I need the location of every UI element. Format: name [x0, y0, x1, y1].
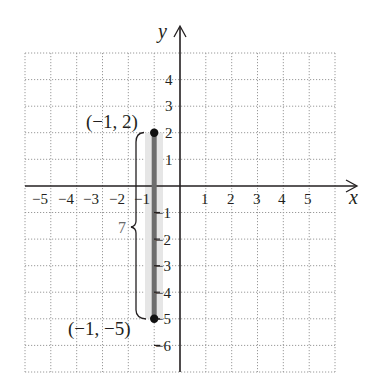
svg-text:−6: −6: [155, 338, 171, 354]
svg-text:−1: −1: [155, 205, 171, 221]
point-top-marker: [150, 129, 158, 137]
svg-text:−4: −4: [155, 285, 171, 301]
svg-text:2: 2: [227, 191, 235, 207]
svg-text:−3: −3: [83, 191, 99, 207]
y-tick-labels: 4 3 2 1 −1 −2 −3 −4 −5 −6: [155, 72, 173, 354]
svg-text:4: 4: [278, 191, 286, 207]
svg-text:−2: −2: [155, 232, 171, 248]
svg-text:−3: −3: [155, 258, 171, 274]
y-axis-label: y: [156, 20, 167, 43]
svg-text:2: 2: [165, 125, 173, 141]
svg-text:3: 3: [165, 98, 173, 114]
svg-text:−2: −2: [109, 191, 125, 207]
svg-text:1: 1: [201, 191, 209, 207]
coordinate-graph: 7 y x −5 −4 −3 −2 −1 1 2 3 4 5 4 3 2 1 −…: [0, 0, 376, 388]
point-top-label: (−1, 2): [86, 111, 138, 133]
svg-text:4: 4: [165, 72, 173, 88]
svg-text:−5: −5: [155, 311, 171, 327]
distance-label: 7: [118, 219, 126, 236]
x-axis-label: x: [348, 186, 358, 208]
svg-text:3: 3: [253, 191, 261, 207]
svg-text:5: 5: [304, 191, 312, 207]
svg-text:1: 1: [165, 152, 173, 168]
point-bottom-label: (−1, −5): [68, 318, 131, 340]
svg-text:−4: −4: [58, 191, 74, 207]
svg-text:−5: −5: [32, 191, 48, 207]
x-tick-labels: −5 −4 −3 −2 −1 1 2 3 4 5: [32, 191, 312, 207]
distance-brace: [131, 133, 146, 320]
svg-text:−1: −1: [134, 191, 150, 207]
